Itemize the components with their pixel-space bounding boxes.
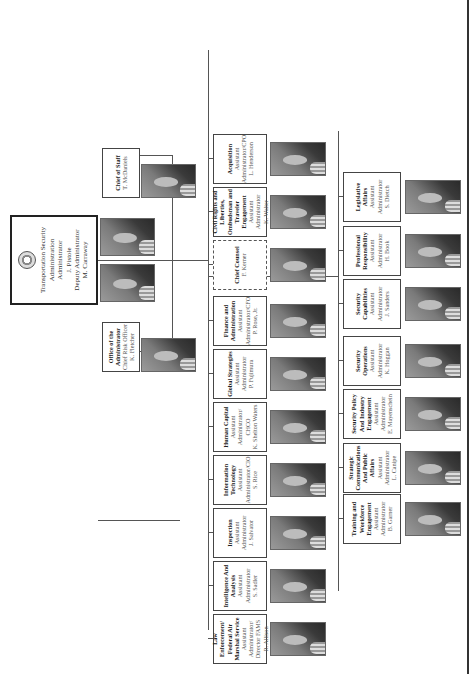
office-role: Assistant Administrator [236, 563, 250, 609]
office-title: Intelligence And Analysis [222, 563, 236, 609]
chief-of-staff-photo [141, 164, 196, 198]
office-head-name: K. Hoggan [383, 347, 390, 374]
office-role: Assistant Administrator/CIO [236, 456, 250, 503]
row1-office-box[interactable]: Intelligence And AnalysisAssistant Admin… [213, 561, 267, 611]
office-role: Assistant Administrator [368, 174, 382, 220]
row1-office-photo [270, 304, 326, 338]
row1-office-photo [270, 248, 326, 282]
office-role: Assistant Administrator [376, 445, 390, 491]
office-role: Assistant Administrator/ Director FAMS [240, 616, 262, 662]
row1-office-box[interactable]: Civil Rights and Liberties, Ombudsman an… [213, 187, 267, 237]
chief-of-staff-box[interactable]: Chief of Staff T. McDaniels [102, 148, 140, 198]
org-name: Transportation Security Administration [39, 218, 56, 302]
office-role: Assistant Administrator/ CHCO [229, 404, 251, 450]
row2-office-box[interactable]: Strategic Communications And Public Affa… [343, 443, 401, 493]
office-head-name: H. Book [383, 241, 390, 262]
row2-office-photo [405, 180, 461, 214]
row2-office-box[interactable]: Security CapabilitiesAssistant Administr… [343, 279, 401, 329]
office-role: Assistant Administrator/CFO [236, 297, 250, 345]
connector-admin-spine [98, 520, 180, 521]
office-head-name: K. Shelton Waters [251, 405, 258, 450]
office-head-name: L. Henderson [247, 142, 254, 176]
office-head-name: J. Sanders [383, 291, 390, 316]
office-head-name: F. Kerner [240, 253, 247, 276]
org-chart: Transportation Security Administration A… [0, 0, 476, 674]
office-of-administrator-photo [141, 338, 196, 372]
row1-office-box[interactable]: Global StrategiesAssistant Administrator… [213, 349, 267, 399]
office-title: Security Capabilities [354, 281, 368, 327]
row2-office-photo [405, 234, 461, 268]
row1-office-photo [270, 142, 326, 176]
row1-office-box[interactable]: Information TechnologyAssistant Administ… [213, 455, 267, 505]
administrator-photo [100, 218, 155, 256]
office-head-name: S. Dietch [383, 185, 390, 208]
office-title: Global Strategies [226, 351, 233, 397]
office-role: Assistant Administrator [368, 228, 382, 274]
office-title: Inspection [226, 519, 233, 547]
office-title: Professional Responsibility [354, 228, 368, 274]
dhs-seal-icon [18, 251, 36, 269]
deputy-photo [100, 264, 155, 302]
office-role: Assistant Administrator [247, 189, 261, 235]
office-title: Strategic Communications And Public Affa… [347, 445, 376, 491]
row1-office-photo [270, 357, 326, 391]
office-head-name: P. Fujimura [247, 360, 254, 389]
deputy-name: M. Carraway [81, 242, 89, 279]
row2-office-box[interactable]: Security Policy And Industry EngagementA… [343, 389, 401, 439]
office-head-name: E. Mayenschein [386, 394, 393, 434]
row1-office-photo [270, 622, 326, 656]
row2-office-photo [405, 451, 461, 485]
deputy-title: Deputy Administrator [73, 229, 81, 290]
office-title: Finance and Administration [222, 298, 236, 344]
office-title: Chief Counsel [233, 246, 240, 283]
office-title: Acquisition [226, 144, 233, 174]
office-role: Assistant Administrator [233, 510, 247, 556]
office-head-name: S. Sadler [251, 575, 258, 597]
row1-office-photo [270, 569, 326, 603]
connector-row2-bus [338, 131, 339, 591]
office-title: Security Policy And Industry Engagement [350, 391, 372, 437]
office-title: Security Operations [354, 338, 368, 384]
row1-office-box[interactable]: Finance and AdministrationAssistant Admi… [213, 296, 267, 346]
row2-office-box[interactable]: Training and Workforce EngagementAssista… [343, 494, 401, 544]
office-title: Training and Workforce Engagement [350, 496, 372, 542]
row2-office-box[interactable]: Security OperationsAssistant Administrat… [343, 336, 401, 386]
office-of-administrator-box[interactable]: Office of the Administrator Chief Risk O… [102, 322, 140, 372]
row1-office-photo [270, 195, 326, 229]
office-role: Assistant Administrator [372, 391, 386, 437]
office-head-name: J. Salvator [247, 520, 254, 546]
office-title: Information Technology [222, 457, 236, 503]
row2-office-photo [405, 344, 461, 378]
office-head-name: R. Allison [262, 626, 269, 651]
office-head-name: B. Garner [386, 507, 393, 531]
office-role: Assistant Administrator/CPO [233, 135, 247, 183]
office-role: Assistant Administrator [368, 338, 382, 384]
row2-office-photo [405, 397, 461, 431]
connector-admin-down [98, 260, 208, 261]
connector-row1-bus [208, 50, 209, 630]
row1-office-box[interactable]: Chief CounselF. Kerner [213, 240, 267, 290]
office-head-name: L. Canipe [390, 456, 397, 480]
administrator-name: J. Pistole [65, 247, 73, 272]
row1-office-box[interactable]: InspectionAssistant AdministratorJ. Salv… [213, 508, 267, 558]
row1-office-box[interactable]: Law Enforcement/ Federal Air Marshal Ser… [213, 614, 267, 664]
connector-chief-of-staff [140, 155, 173, 156]
row2-office-box[interactable]: Legislative AffairsAssistant Administrat… [343, 172, 401, 222]
office-title: Law Enforcement/ Federal Air Marshal Ser… [211, 616, 240, 662]
row2-office-photo [405, 287, 461, 321]
office-title: Legislative Affairs [354, 174, 368, 220]
row2-office-photo [405, 502, 461, 536]
administrator-box[interactable]: Transportation Security Administration A… [10, 215, 98, 305]
row1-office-photo [270, 463, 326, 497]
office-head-name: S. Rice [251, 471, 258, 489]
row1-office-photo [270, 516, 326, 550]
office-role: Assistant Administrator [372, 496, 386, 542]
office-role: Assistant Administrator [368, 281, 382, 327]
office-title: Civil Rights and Liberties, Ombudsman an… [211, 189, 247, 235]
row2-office-box[interactable]: Professional ResponsibilityAssistant Adm… [343, 226, 401, 276]
row1-office-photo [270, 410, 326, 444]
administrator-title: Administrator [56, 240, 64, 279]
row1-office-box[interactable]: AcquisitionAssistant Administrator/CPOL.… [213, 134, 267, 184]
row1-office-box[interactable]: Human CapitalAssistant Administrator/ CH… [213, 402, 267, 452]
office-head-name: K. Walter [262, 200, 269, 224]
